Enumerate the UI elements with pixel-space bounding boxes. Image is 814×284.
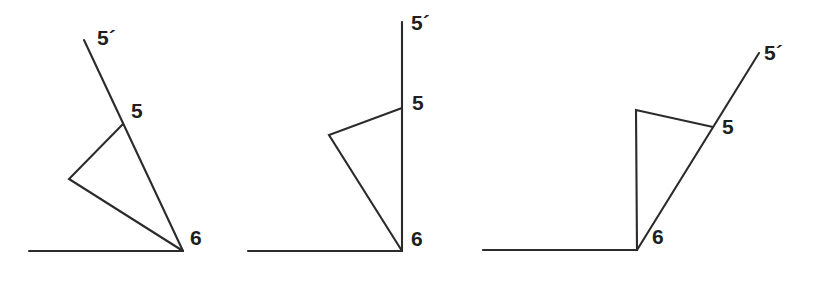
panel-1-label-5: 5	[131, 100, 143, 121]
panel-1-group	[29, 40, 183, 251]
panel-1-flap	[69, 124, 183, 251]
panel-2-label-6: 6	[411, 228, 423, 249]
panel-1-label-5-prime: 5´	[97, 27, 116, 48]
panel-1-label-6: 6	[190, 227, 202, 248]
panel-2-flap	[329, 108, 402, 251]
figure-board: 5´ 5 6 5´ 5 6 5´ 5 6	[0, 0, 814, 284]
geometry-figure-svg	[0, 0, 814, 284]
panel-3-label-6: 6	[652, 226, 664, 247]
panel-3-flap	[636, 110, 713, 250]
panel-2-label-5-prime: 5´	[411, 12, 430, 33]
panel-3-group	[483, 53, 759, 250]
panel-2-group	[248, 22, 402, 251]
panel-3-ray-5-prime	[637, 53, 759, 250]
panel-3-label-5: 5	[722, 116, 734, 137]
panel-2-label-5: 5	[412, 92, 424, 113]
panel-3-label-5-prime: 5´	[764, 42, 783, 63]
